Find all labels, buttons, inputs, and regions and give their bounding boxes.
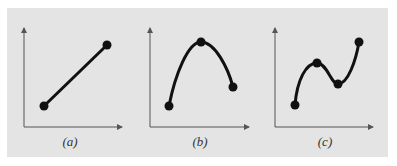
data-point <box>165 102 174 111</box>
linear-fit-line <box>44 45 107 106</box>
panel-c-label: (c) <box>305 134 345 150</box>
cubic-curve <box>295 42 359 105</box>
data-point <box>355 38 364 47</box>
data-point <box>313 59 322 68</box>
data-point <box>103 41 112 50</box>
panel-a <box>24 28 122 127</box>
data-point <box>40 102 49 111</box>
data-point <box>229 83 238 92</box>
data-point <box>197 38 206 47</box>
panel-c <box>275 28 373 127</box>
quadratic-curve <box>169 42 233 106</box>
panel-a-label: (a) <box>50 134 90 150</box>
data-point <box>334 80 343 89</box>
panel-b-label: (b) <box>180 134 220 150</box>
panel-b <box>150 28 249 127</box>
data-point <box>291 101 300 110</box>
